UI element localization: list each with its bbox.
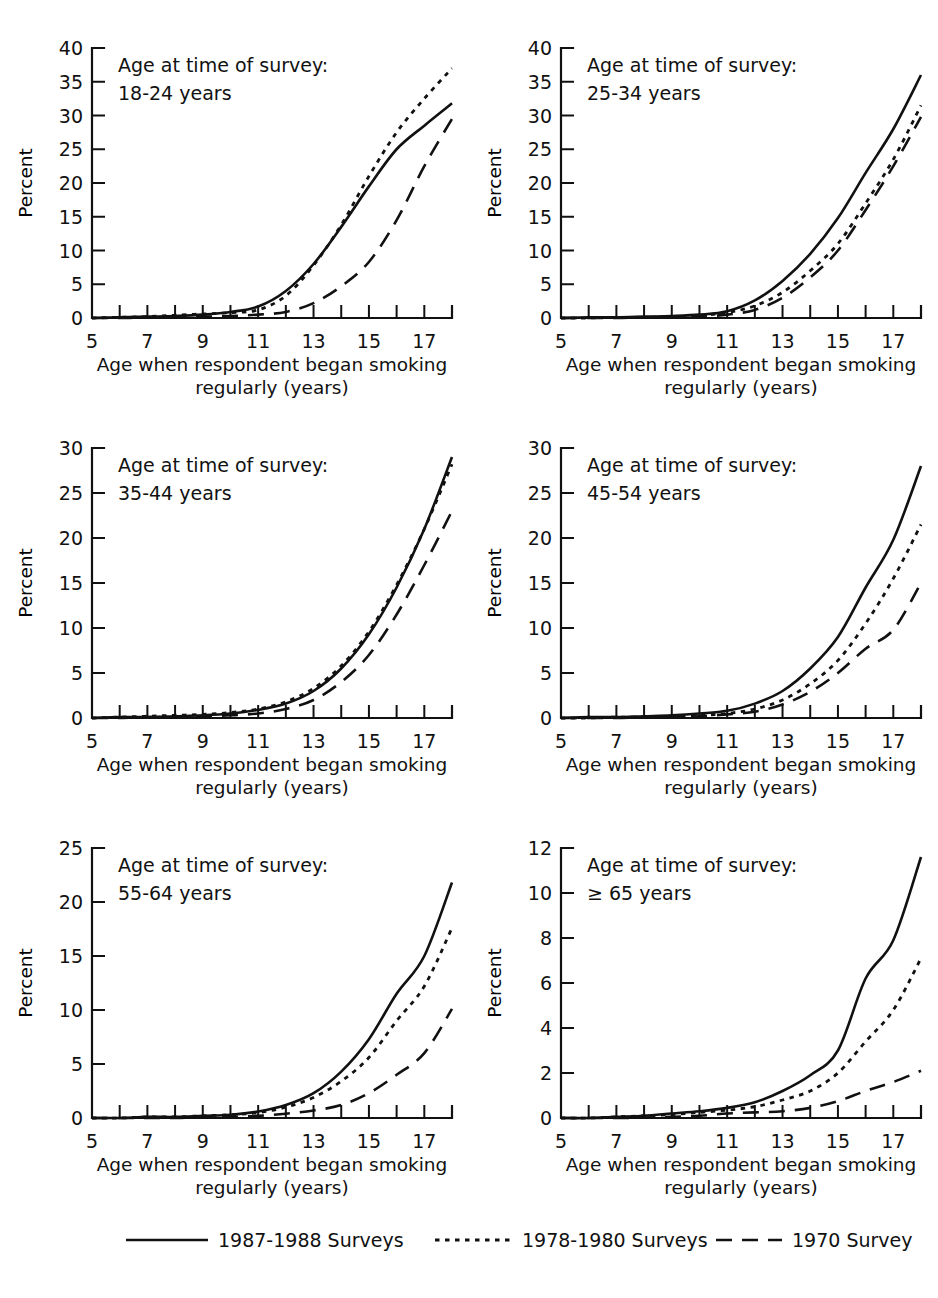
series-line-dashed bbox=[561, 1071, 921, 1118]
x-tick-label: 17 bbox=[881, 730, 905, 752]
chart-svg-2: Percent 051015202530 57911131517 Age at … bbox=[0, 400, 469, 800]
y-tick-label: 10 bbox=[59, 240, 83, 262]
y-tick-label: 0 bbox=[71, 707, 83, 729]
y-tick-label: 5 bbox=[71, 273, 83, 295]
y-tick-label: 20 bbox=[528, 527, 552, 549]
y-ticks-5 bbox=[561, 848, 574, 1118]
panel-note-prefix-5: Age at time of survey: bbox=[587, 854, 797, 876]
series-line-solid bbox=[92, 103, 452, 318]
series-line-dotted bbox=[561, 525, 921, 719]
y-tick-label: 20 bbox=[59, 527, 83, 549]
y-tick-label: 35 bbox=[59, 71, 83, 93]
x-tick-label: 17 bbox=[881, 1130, 905, 1152]
x-axis-label-line2-1: regularly (years) bbox=[664, 377, 817, 398]
x-tick-labels-5: 57911131517 bbox=[555, 1130, 905, 1152]
x-tick-label: 11 bbox=[246, 730, 270, 752]
y-tick-label: 30 bbox=[528, 105, 552, 127]
y-ticks-4 bbox=[92, 848, 105, 1118]
y-tick-label: 10 bbox=[528, 240, 552, 262]
legend-label-1978-1980: 1978-1980 Surveys bbox=[522, 1229, 708, 1251]
panel-grid: Percent 0510152025303540 57911131517 Age… bbox=[0, 0, 938, 1200]
x-tick-label: 11 bbox=[715, 1130, 739, 1152]
chart-panel-25-34: Percent 0510152025303540 57911131517 Age… bbox=[469, 0, 938, 400]
panel-note-prefix-2: Age at time of survey: bbox=[118, 454, 328, 476]
y-tick-label: 25 bbox=[59, 482, 83, 504]
legend-label-1987-1988: 1987-1988 Surveys bbox=[218, 1229, 404, 1251]
y-tick-label: 10 bbox=[59, 617, 83, 639]
y-axis-label-0: Percent bbox=[15, 148, 36, 218]
panel-note-value-2: 35-44 years bbox=[118, 482, 232, 504]
y-tick-labels-3: 051015202530 bbox=[528, 437, 552, 729]
x-tick-label: 11 bbox=[715, 730, 739, 752]
x-tick-label: 13 bbox=[301, 730, 325, 752]
x-axis-label-line1-0: Age when respondent began smoking bbox=[97, 354, 448, 375]
panel-note-value-5: ≥ 65 years bbox=[587, 882, 691, 904]
chart-svg-5: Percent 024681012 57911131517 Age at tim… bbox=[469, 800, 938, 1200]
x-tick-label: 5 bbox=[86, 330, 98, 352]
x-tick-label: 15 bbox=[357, 730, 381, 752]
y-tick-label: 12 bbox=[528, 837, 552, 859]
x-axis-label-line2-2: regularly (years) bbox=[195, 777, 348, 798]
x-tick-labels-3: 57911131517 bbox=[555, 730, 905, 752]
y-tick-label: 0 bbox=[540, 1107, 552, 1129]
y-tick-label: 25 bbox=[59, 138, 83, 160]
legend-entry-1987-1988: 1987-1988 Surveys bbox=[126, 1229, 404, 1251]
x-axis-label-line1-4: Age when respondent began smoking bbox=[97, 1154, 448, 1175]
y-tick-label: 10 bbox=[528, 882, 552, 904]
x-tick-label: 13 bbox=[770, 1130, 794, 1152]
series-group-1 bbox=[561, 75, 921, 318]
x-axis-label-line1-3: Age when respondent began smoking bbox=[566, 754, 917, 775]
series-line-dotted bbox=[92, 928, 452, 1118]
x-tick-label: 5 bbox=[555, 330, 567, 352]
x-tick-label: 9 bbox=[666, 1130, 678, 1152]
y-tick-label: 15 bbox=[59, 206, 83, 228]
x-tick-label: 15 bbox=[826, 1130, 850, 1152]
y-ticks-1 bbox=[561, 48, 574, 318]
x-tick-label: 15 bbox=[826, 730, 850, 752]
panel-note-prefix-4: Age at time of survey: bbox=[118, 854, 328, 876]
x-tick-label: 17 bbox=[412, 330, 436, 352]
x-tick-label: 9 bbox=[197, 730, 209, 752]
panel-note-prefix-3: Age at time of survey: bbox=[587, 454, 797, 476]
x-tick-label: 15 bbox=[826, 330, 850, 352]
x-axis-label-line2-3: regularly (years) bbox=[664, 777, 817, 798]
chart-panel-35-44: Percent 051015202530 57911131517 Age at … bbox=[0, 400, 469, 800]
series-line-solid bbox=[92, 883, 452, 1119]
y-tick-label: 8 bbox=[540, 927, 552, 949]
y-tick-labels-4: 0510152025 bbox=[59, 837, 83, 1129]
chart-svg-1: Percent 0510152025303540 57911131517 Age… bbox=[469, 0, 938, 400]
y-tick-label: 15 bbox=[59, 945, 83, 967]
y-tick-label: 5 bbox=[540, 662, 552, 684]
x-tick-label: 5 bbox=[555, 730, 567, 752]
y-axis-label-3: Percent bbox=[484, 548, 505, 618]
x-tick-labels-2: 57911131517 bbox=[86, 730, 436, 752]
panel-note-value-0: 18-24 years bbox=[118, 82, 232, 104]
x-axis-label-line1-2: Age when respondent began smoking bbox=[97, 754, 448, 775]
panel-note-value-3: 45-54 years bbox=[587, 482, 701, 504]
series-line-dashed bbox=[561, 117, 921, 318]
y-tick-label: 30 bbox=[59, 437, 83, 459]
x-tick-label: 7 bbox=[610, 1130, 622, 1152]
x-axis-label-line2-5: regularly (years) bbox=[664, 1177, 817, 1198]
x-tick-label: 17 bbox=[412, 730, 436, 752]
x-tick-label: 7 bbox=[610, 330, 622, 352]
x-tick-label: 11 bbox=[246, 330, 270, 352]
x-tick-label: 5 bbox=[86, 730, 98, 752]
x-axis-label-line1-1: Age when respondent began smoking bbox=[566, 354, 917, 375]
chart-svg-0: Percent 0510152025303540 57911131517 Age… bbox=[0, 0, 469, 400]
y-tick-label: 10 bbox=[59, 999, 83, 1021]
y-tick-label: 40 bbox=[528, 37, 552, 59]
y-axis-label-4: Percent bbox=[15, 948, 36, 1018]
x-tick-label: 13 bbox=[770, 330, 794, 352]
y-ticks-3 bbox=[561, 448, 574, 718]
series-line-solid bbox=[561, 75, 921, 318]
legend-entry-1978-1980: 1978-1980 Surveys bbox=[435, 1229, 708, 1251]
y-tick-labels-1: 0510152025303540 bbox=[528, 37, 552, 329]
x-tick-label: 7 bbox=[141, 1130, 153, 1152]
chart-panel-65-plus: Percent 024681012 57911131517 Age at tim… bbox=[469, 800, 938, 1200]
chart-panel-55-64: Percent 0510152025 57911131517 Age at ti… bbox=[0, 800, 469, 1200]
panel-note-value-4: 55-64 years bbox=[118, 882, 232, 904]
y-tick-label: 5 bbox=[71, 662, 83, 684]
x-tick-label: 7 bbox=[141, 330, 153, 352]
y-tick-label: 15 bbox=[59, 572, 83, 594]
